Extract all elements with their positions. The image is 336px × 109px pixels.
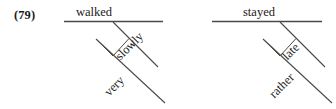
sentence-diagram-figure: (79) walked slowly very stayed late rath… — [0, 0, 336, 109]
word-walked: walked — [76, 6, 112, 19]
right-connector-upper — [263, 39, 280, 56]
word-stayed: stayed — [243, 6, 275, 19]
